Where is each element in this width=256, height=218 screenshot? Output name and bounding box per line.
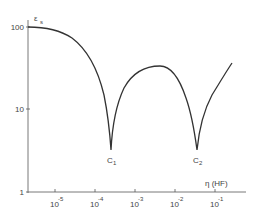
y-tick-10: 10 <box>15 105 24 114</box>
y-axis-label: ε <box>34 14 38 23</box>
x-axis-label: η (HF) <box>205 179 228 188</box>
svg-text:-2: -2 <box>178 196 184 202</box>
svg-text:-4: -4 <box>98 196 104 202</box>
y-tick-100: 100 <box>11 23 25 32</box>
y-tick-1: 1 <box>20 188 25 197</box>
svg-text:2: 2 <box>199 160 203 166</box>
chart: 100 10 1 ε s 10-5 10-4 10-3 10-2 10-1 η … <box>0 0 256 218</box>
series-line <box>28 27 232 150</box>
svg-text:-3: -3 <box>138 196 144 202</box>
svg-text:-5: -5 <box>58 196 64 202</box>
svg-text:1: 1 <box>113 160 117 166</box>
y-axis-label-sub: s <box>40 19 43 25</box>
x-tick-labels: 10-5 10-4 10-3 10-2 10-1 <box>50 196 224 209</box>
svg-text:-1: -1 <box>218 196 224 202</box>
